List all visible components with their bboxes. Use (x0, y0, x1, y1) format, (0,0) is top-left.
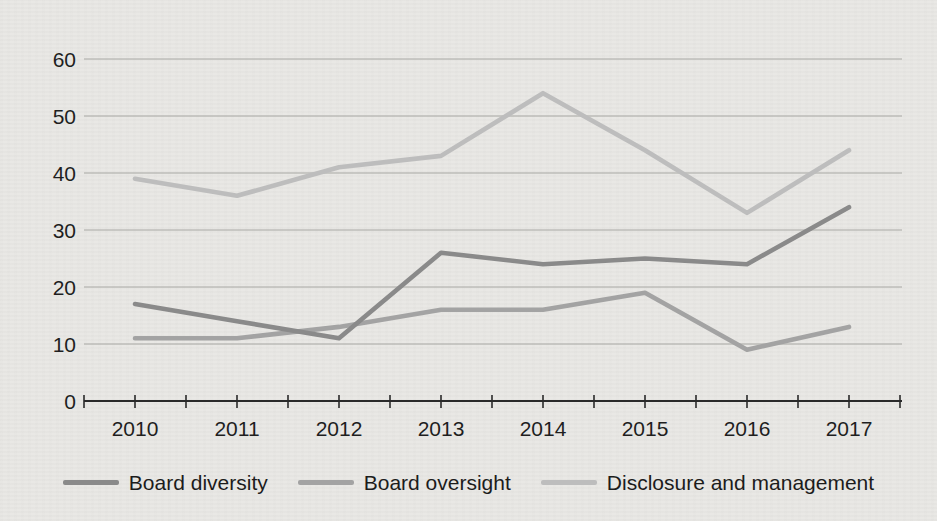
x-axis-label-2013: 2013 (418, 417, 465, 440)
series-line-disclosure-and-management (135, 93, 849, 213)
x-axis-label-2012: 2012 (316, 417, 363, 440)
y-axis-label-50: 50 (53, 105, 76, 128)
y-axis-label-30: 30 (53, 219, 76, 242)
legend-swatch-disclosure-and-management (541, 480, 597, 485)
legend-label-disclosure-and-management: Disclosure and management (607, 472, 874, 493)
legend-item-board-oversight: Board oversight (298, 472, 511, 493)
y-axis-label-10: 10 (53, 333, 76, 356)
chart-legend: Board diversityBoard oversightDisclosure… (0, 472, 937, 493)
y-axis-label-40: 40 (53, 162, 76, 185)
series-line-board-diversity (135, 207, 849, 338)
x-axis-label-2017: 2017 (826, 417, 873, 440)
legend-swatch-board-diversity (63, 480, 119, 485)
y-axis-label-20: 20 (53, 276, 76, 299)
legend-swatch-board-oversight (298, 480, 354, 485)
legend-label-board-diversity: Board diversity (129, 472, 268, 493)
x-axis-label-2011: 2011 (214, 417, 259, 440)
line-chart: 0102030405060201020112012201320142015201… (0, 0, 937, 465)
legend-label-board-oversight: Board oversight (364, 472, 511, 493)
legend-item-disclosure-and-management: Disclosure and management (541, 472, 874, 493)
legend-item-board-diversity: Board diversity (63, 472, 268, 493)
y-axis-label-0: 0 (64, 390, 76, 413)
y-axis-label-60: 60 (53, 48, 76, 71)
scanned-line-chart-page: 0102030405060201020112012201320142015201… (0, 0, 937, 521)
x-axis-label-2016: 2016 (724, 417, 771, 440)
x-axis-label-2015: 2015 (622, 417, 669, 440)
x-axis-label-2010: 2010 (112, 417, 159, 440)
x-axis-label-2014: 2014 (520, 417, 567, 440)
